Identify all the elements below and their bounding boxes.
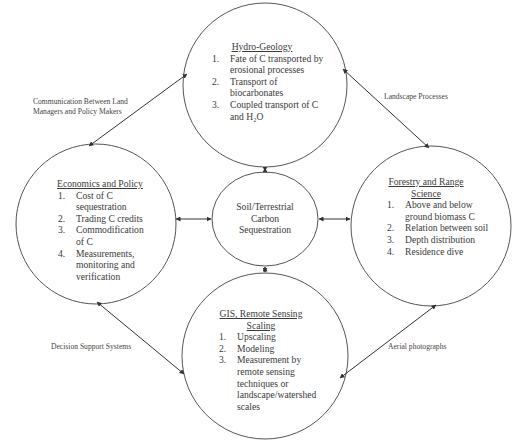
- edge-label-forestry-gis: Aerial photographs: [388, 342, 446, 352]
- center-line: Carbon: [215, 213, 315, 225]
- list-item: 4.Measurements, monitoring and verificat…: [56, 248, 150, 283]
- list-item: 2.Modeling: [217, 343, 323, 355]
- list-item: 2.Transport of biocarbonates: [210, 76, 328, 99]
- hydro-geology-title: Hydro-Geology: [210, 41, 314, 53]
- arrow-hydro-forestry: [343, 69, 429, 148]
- economics-policy-title: Economics and Policy: [50, 178, 150, 190]
- arrow-economics-gis: [97, 302, 184, 374]
- economics-policy-list: 1.Cost of C sequestration 2.Trading C cr…: [50, 190, 150, 283]
- gis-remote-sensing-node: GIS, Remote Sensing Scaling 1.Upscaling …: [217, 308, 323, 412]
- list-item: 1.Cost of C sequestration: [56, 190, 150, 213]
- center-line: Soil/Terrestrial: [215, 201, 315, 213]
- list-item: 1.Upscaling: [217, 331, 323, 343]
- list-item: 3.Measurement by remote sensing techniqu…: [217, 354, 323, 412]
- list-item: 1.Above and below ground biomass C: [385, 199, 493, 222]
- edge-label-hydro-forestry: Landscape Processes: [384, 92, 448, 102]
- forestry-range-title: Forestry and Range Science: [385, 176, 467, 199]
- list-item: 3.Coupled transport of C and H₂O: [210, 99, 328, 122]
- list-item: 3.Depth distribution: [385, 234, 493, 246]
- list-item: 1.Fate of C transported by erosional pro…: [210, 53, 328, 76]
- forestry-range-node: Forestry and Range Science 1.Above and b…: [385, 176, 493, 257]
- list-item: 4.Residence dive: [385, 246, 493, 258]
- edge-label-economics-gis: Decision Support Systems: [51, 342, 131, 352]
- soil-carbon-node: Soil/Terrestrial Carbon Sequestration: [215, 201, 315, 236]
- gis-remote-sensing-title: GIS, Remote Sensing Scaling: [217, 308, 305, 331]
- list-item: 2.Relation between soil: [385, 222, 493, 234]
- hydro-geology-list: 1.Fate of C transported by erosional pro…: [210, 53, 328, 123]
- center-line: Sequestration: [215, 224, 315, 236]
- gis-remote-sensing-list: 1.Upscaling 2.Modeling 3.Measurement by …: [217, 331, 323, 412]
- list-item: 3.Commodification of C: [56, 224, 150, 247]
- list-item: 2.Trading C credits: [56, 213, 150, 225]
- forestry-range-list: 1.Above and below ground biomass C 2.Rel…: [385, 199, 493, 257]
- hydro-geology-node: Hydro-Geology 1.Fate of C transported by…: [210, 41, 328, 122]
- edge-label-hydro-economics: Communication Between Land Managers and …: [33, 97, 128, 116]
- economics-policy-node: Economics and Policy 1.Cost of C sequest…: [50, 178, 150, 282]
